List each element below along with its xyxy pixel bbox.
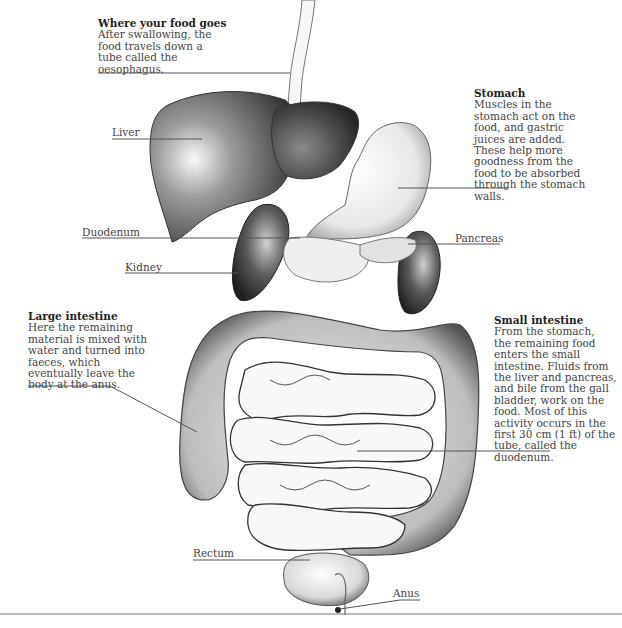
callout-small-intestine: Small intestine From the stomach, the re… [494, 315, 622, 463]
label-anus: Anus [393, 587, 420, 599]
callout-large-intestine-body: Here the remaining material is mixed wit… [28, 322, 198, 390]
duodenum [284, 237, 369, 282]
callout-stomach: Stomach Muscles in the stomach act on th… [474, 88, 622, 202]
label-rectum: Rectum [193, 547, 234, 559]
label-liver: Liver [112, 126, 140, 138]
label-duodenum: Duodenum [82, 226, 140, 238]
callout-food-body: After swallowing, the food travels down … [98, 29, 298, 75]
label-pancreas: Pancreas [455, 232, 503, 244]
callout-small-intestine-body: From the stomach, the remaining food ent… [494, 326, 622, 463]
rectum [284, 553, 369, 606]
liver-right-lobe [272, 102, 359, 179]
callout-food: Where your food goes After swallowing, t… [98, 18, 298, 75]
kidney-left [232, 204, 288, 300]
anus [335, 607, 341, 613]
callout-stomach-body: Muscles in the stomach act on the food, … [474, 99, 622, 202]
label-kidney: Kidney [125, 261, 162, 273]
callout-large-intestine: Large intestine Here the remaining mater… [28, 311, 198, 391]
